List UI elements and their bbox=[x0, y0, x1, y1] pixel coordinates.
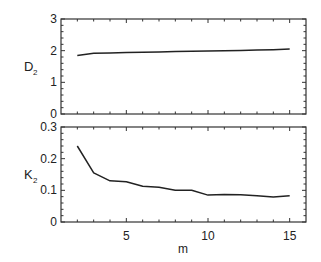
y-tick-label: 0.1 bbox=[40, 183, 57, 197]
y-axis-label-subscript: 2 bbox=[33, 68, 38, 77]
d2-panel: 0123D2 bbox=[24, 12, 306, 121]
y-tick-label: 1 bbox=[50, 75, 57, 89]
series-line-d2 bbox=[77, 49, 289, 55]
y-axis-label: D bbox=[24, 59, 33, 74]
y-tick-label: 2 bbox=[50, 44, 57, 58]
x-tick-label: 5 bbox=[123, 229, 130, 243]
series-line-k2 bbox=[77, 146, 289, 197]
x-axis-label: m bbox=[178, 242, 188, 256]
y-tick-label: 0 bbox=[50, 107, 57, 121]
x-tick-label: 15 bbox=[283, 229, 297, 243]
chart-figure: 0123D2 00.10.20.351015K2m bbox=[0, 0, 321, 262]
y-axis-label: K bbox=[24, 167, 33, 182]
y-tick-label: 3 bbox=[50, 12, 57, 26]
x-tick-label: 10 bbox=[201, 229, 215, 243]
y-tick-label: 0 bbox=[50, 215, 57, 229]
k2-panel: 00.10.20.351015K2m bbox=[24, 120, 306, 256]
y-tick-label: 0.3 bbox=[40, 120, 57, 134]
y-tick-label: 0.2 bbox=[40, 152, 57, 166]
y-axis-label-subscript: 2 bbox=[33, 176, 38, 185]
plot-frame bbox=[61, 19, 306, 114]
